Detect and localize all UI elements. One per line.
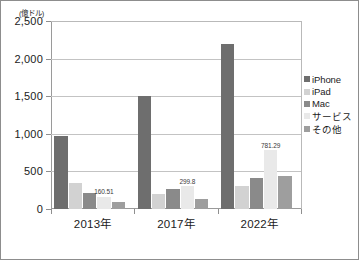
legend-swatch-icon [304,76,310,82]
bar[interactable] [235,186,249,209]
legend-item-label: iPhone [312,74,341,85]
legend-item[interactable]: iPhone [304,73,360,85]
legend-item[interactable]: Mac [304,98,360,110]
bar[interactable] [97,197,111,209]
y-axis-tick-label: 2,500 [1,15,43,27]
bar[interactable] [221,44,235,209]
legend-item-label: iPad [312,86,331,97]
y-axis-tick-label: 500 [1,165,43,177]
legend-item[interactable]: その他 [304,123,360,135]
bar-group: 781.29 [219,21,302,209]
bar[interactable] [278,176,292,209]
bar-data-label: 781.29 [261,142,280,149]
x-axis-separator-tick [218,209,219,214]
bar[interactable] [54,136,68,209]
x-axis-tick-label: 2022年 [241,215,279,231]
bar-data-label: 299.8 [179,178,195,185]
y-axis-tick-label: 1,500 [1,90,43,102]
legend-item-label: Mac [312,98,330,109]
bar[interactable] [112,202,126,209]
bar[interactable] [181,186,195,209]
y-axis-tick-label: 0 [1,203,43,215]
bar-group: 299.8 [135,21,218,209]
bar-data-label: 160.51 [94,188,113,195]
x-axis-tick-label: 2013年 [74,215,112,231]
bar[interactable] [138,96,152,209]
bar-series-layer: 160.51299.8781.29 [52,21,301,209]
legend-swatch-icon [304,126,310,132]
bar[interactable] [166,189,180,209]
x-axis-separator-tick [134,209,135,214]
x-axis-tick-label: 2017年 [157,215,195,231]
legend-item[interactable]: iPad [304,85,360,97]
legend-item-label: その他 [312,122,342,136]
legend-swatch-icon [304,113,310,119]
bar-group: 160.51 [52,21,135,209]
x-axis-separator-tick [301,209,302,214]
y-axis-tick-mark [46,21,51,22]
y-axis-tick-label: 2,000 [1,53,43,65]
legend-swatch-icon [304,101,310,107]
bar[interactable] [250,178,264,209]
x-axis-separator-tick [51,209,52,214]
bar[interactable] [69,183,83,209]
y-axis-tick-label: 1,000 [1,128,43,140]
bar[interactable] [264,150,278,209]
bar[interactable] [195,199,209,209]
chart-frame: (億ドル) 05001,0001,5002,0002,500 160.51299… [0,0,359,260]
chart-legend: iPhoneiPadMacサービスその他 [304,73,360,135]
legend-item[interactable]: サービス [304,110,360,122]
bar[interactable] [152,194,166,209]
legend-swatch-icon [304,89,310,95]
